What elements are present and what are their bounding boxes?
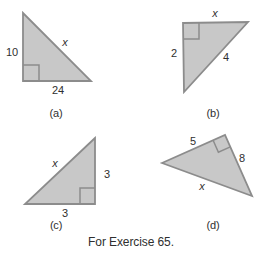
triangle-c-hypotenuse-label: x: [51, 157, 58, 169]
triangle-d-right-side-label: 8: [239, 152, 245, 164]
triangle-c-shape: [25, 138, 95, 204]
triangle-c-caption: (c): [50, 219, 62, 231]
triangle-d-bottom-side-label: x: [198, 180, 205, 192]
triangle-a-shape: [23, 13, 91, 81]
figure-caption: For Exercise 65.: [88, 235, 174, 249]
triangle-d-top-side-label: 5: [190, 135, 196, 147]
triangle-b: x 2 4 (b): [171, 7, 248, 119]
triangle-a-caption: (a): [50, 107, 63, 119]
triangle-d: 5 8 x (d): [162, 135, 252, 231]
triangle-a-hypotenuse-label: x: [61, 36, 68, 48]
triangle-a-bottom-side-label: 24: [52, 84, 64, 96]
triangle-c-bottom-side-label: 3: [62, 207, 68, 219]
triangle-b-left-side-label: 2: [171, 47, 177, 59]
triangle-a-left-side-label: 10: [6, 46, 18, 58]
triangle-d-shape: [162, 135, 252, 196]
triangle-d-caption: (d): [207, 219, 220, 231]
triangles-figure: 10 x 24 (a) x 2 4 (b) x 3 3 (c) 5: [0, 0, 265, 255]
triangle-a: 10 x 24 (a): [6, 13, 91, 119]
triangle-c: x 3 3 (c): [25, 138, 110, 231]
triangle-b-shape: [183, 22, 248, 92]
triangle-b-top-side-label: x: [211, 7, 218, 19]
triangle-c-right-side-label: 3: [104, 168, 110, 180]
triangle-b-caption: (b): [207, 107, 220, 119]
triangle-b-hypotenuse-label: 4: [223, 51, 229, 63]
figure-canvas: 10 x 24 (a) x 2 4 (b) x 3 3 (c) 5: [0, 0, 265, 255]
